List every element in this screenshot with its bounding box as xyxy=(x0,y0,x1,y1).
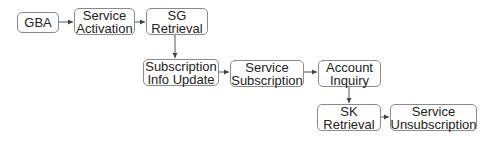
node-account-inquiry: Account Inquiry xyxy=(318,60,381,87)
node-sk-retrieval: SK Retrieval xyxy=(317,104,381,131)
node-sg-retrieval: SG Retrieval xyxy=(146,8,208,35)
node-subscription-info-update: Subscription Info Update xyxy=(143,59,219,86)
node-gba: GBA xyxy=(17,12,59,33)
node-service-subscription: Service Subscription xyxy=(230,60,304,87)
node-service-activation: Service Activation xyxy=(74,8,135,35)
node-service-unsubscription: Service Unsubscription xyxy=(390,104,477,131)
